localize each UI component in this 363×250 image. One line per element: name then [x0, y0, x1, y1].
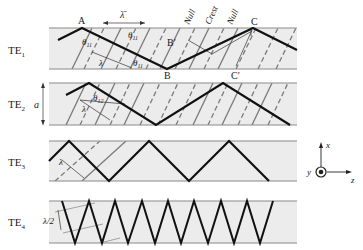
te4-waveguide: [49, 201, 297, 243]
lambda-bar-label: λ̄: [119, 9, 127, 20]
x-axis-arrow-icon: [319, 142, 323, 148]
point-c: C: [251, 16, 258, 27]
point-b: B: [164, 70, 171, 81]
z-axis-arrow-icon: [346, 170, 352, 174]
waveguide-modes-diagram: TE1 A λ̄ θ11 θ11 λ θ11 B B′ C C′ Null Cr…: [0, 0, 363, 250]
point-a: A: [78, 15, 86, 26]
point-b-prime: B′: [167, 37, 176, 48]
y-axis-label: y: [306, 167, 311, 177]
lambda-label-te2: λ: [81, 104, 86, 114]
wavefront-label-null-2: Null: [224, 7, 240, 27]
te4-label: TE4: [8, 216, 25, 231]
wavefront-label-null-1: Null: [181, 7, 197, 27]
te2-waveguide: [41, 83, 297, 125]
lambda-half-label: λ/2: [42, 216, 54, 226]
coordinate-axes: [316, 142, 352, 177]
wavefront-label-crest: Crest: [203, 4, 220, 26]
width-a-label: a: [34, 99, 39, 110]
te3-label: TE3: [8, 156, 25, 171]
te1-label: TE1: [8, 44, 25, 59]
te2-label: TE2: [8, 98, 25, 113]
lambda-label-te3: λ: [58, 157, 63, 167]
te3-waveguide: [49, 141, 297, 181]
point-c-prime: C′: [231, 70, 240, 81]
lambda-label-te1: λ: [98, 58, 103, 68]
x-axis-label: x: [325, 140, 330, 150]
z-axis-label: z: [350, 175, 355, 185]
